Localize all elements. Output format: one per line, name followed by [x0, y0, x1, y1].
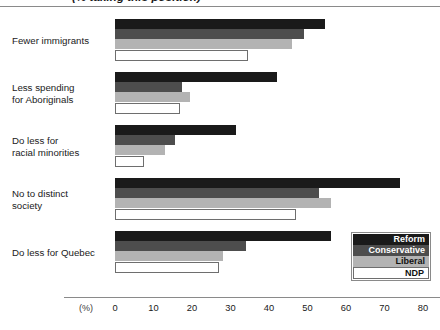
axis-tick-label: 70 [373, 303, 397, 313]
axis-unit-label: (%) [79, 303, 93, 313]
category-label: Less spendingfor Aboriginals [12, 82, 112, 105]
bar-reform [115, 19, 325, 29]
axis-tick-label: 10 [142, 303, 166, 313]
bars-wrapper [115, 177, 435, 224]
category-label-line: for Aboriginals [12, 94, 112, 106]
bar-ndp [115, 50, 248, 61]
category-label: No to distinctsociety [12, 188, 112, 211]
bar-conservative [115, 135, 175, 145]
category-label-line: Do less for [12, 135, 112, 147]
bars-wrapper [115, 18, 435, 65]
category-label-line: Do less for Quebec [12, 247, 112, 259]
bar-reform [115, 125, 236, 135]
bar-group: Do less forracial minorities [0, 124, 440, 171]
bars-wrapper [115, 124, 435, 171]
axis-tick-label: 40 [257, 303, 281, 313]
category-label: Fewer immigrants [12, 35, 112, 47]
category-label: Do less forracial minorities [12, 135, 112, 158]
bar-conservative [115, 241, 246, 251]
category-label-line: racial minorities [12, 147, 112, 159]
chart-title: (% taking this position) [72, 0, 201, 3]
axis-line [64, 297, 440, 298]
bar-liberal [115, 92, 190, 102]
bar-group: Fewer immigrants [0, 18, 440, 65]
chart-legend: Reform Conservative Liberal NDP [351, 232, 431, 281]
bar-liberal [115, 39, 292, 49]
axis-tick-label: 30 [219, 303, 243, 313]
bar-conservative [115, 82, 182, 92]
bar-reform [115, 231, 331, 241]
category-label-line: No to distinct [12, 188, 112, 200]
bar-liberal [115, 145, 165, 155]
bar-reform [115, 178, 400, 188]
bar-ndp [115, 262, 219, 273]
category-label-line: society [12, 200, 112, 212]
chart-container: (% taking this position) Fewer immigrant… [0, 0, 440, 330]
bar-ndp [115, 103, 180, 114]
axis-tick-label: 0 [103, 303, 127, 313]
category-label-line: Fewer immigrants [12, 35, 112, 47]
legend-item-reform: Reform [353, 234, 429, 245]
bar-ndp [115, 156, 144, 167]
title-divider [0, 6, 440, 7]
bar-reform [115, 72, 277, 82]
bar-liberal [115, 198, 331, 208]
bar-ndp [115, 209, 296, 220]
bar-group: Less spendingfor Aboriginals [0, 71, 440, 118]
x-axis: (%) 01020304050607080 [0, 297, 440, 330]
axis-tick-label: 20 [180, 303, 204, 313]
bar-liberal [115, 251, 223, 261]
legend-item-ndp: NDP [353, 267, 429, 279]
bar-conservative [115, 188, 319, 198]
legend-item-conservative: Conservative [353, 245, 429, 256]
category-label: Do less for Quebec [12, 247, 112, 259]
bar-conservative [115, 29, 304, 39]
legend-item-liberal: Liberal [353, 256, 429, 267]
category-label-line: Less spending [12, 82, 112, 94]
bars-wrapper [115, 71, 435, 118]
bar-group: No to distinctsociety [0, 177, 440, 224]
axis-tick-label: 50 [296, 303, 320, 313]
axis-tick-label: 80 [411, 303, 435, 313]
axis-tick-label: 60 [334, 303, 358, 313]
